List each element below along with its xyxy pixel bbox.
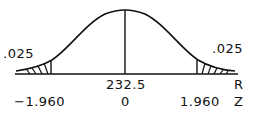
raw-axis-label: R — [234, 78, 244, 91]
right-tail-area-label: .025 — [212, 42, 243, 55]
z-axis-label: Z — [234, 95, 243, 108]
left-critical-z-label: −1.960 — [14, 95, 65, 108]
mean-z-label: 0 — [121, 95, 130, 108]
mean-raw-label: 232.5 — [106, 78, 146, 91]
right-critical-z-label: 1.960 — [180, 95, 220, 108]
left-tail-area-label: .025 — [3, 47, 34, 60]
